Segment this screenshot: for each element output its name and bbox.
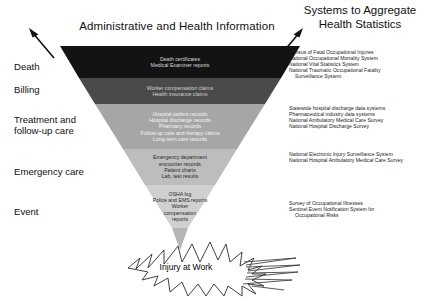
systems-list-treatment: Statewide hospital discharge data system… xyxy=(289,105,432,129)
systems-list-emergency: National Electronic Injury Surveillance … xyxy=(289,151,432,163)
system-item: National Hospital Ambulatory Medical Car… xyxy=(289,157,432,163)
right-up-arrow-icon xyxy=(276,26,306,60)
funnel-band-emergency-text: Emergency department encounter records P… xyxy=(153,154,207,179)
outcome-label: Injury at Work xyxy=(126,262,246,272)
system-item: Surveillance System xyxy=(289,73,432,79)
left-column-title: Administrative and Health Information xyxy=(62,20,292,32)
source-item: Follow-up care and therapy claims xyxy=(140,130,219,136)
diagram-canvas: Administrative and Health Information Sy… xyxy=(0,0,432,302)
funnel-band-treatment: Hospital patient records Hospital discha… xyxy=(60,104,300,149)
left-up-arrow-icon xyxy=(26,26,56,60)
system-item: National Hospital Discharge Survey xyxy=(289,123,432,129)
source-item: Medical Examiner reports xyxy=(151,62,210,68)
source-item: reports xyxy=(153,216,208,222)
source-item: Lab, test results xyxy=(153,173,207,179)
right-column-title: Systems to Aggregate Health Statistics xyxy=(290,4,430,31)
system-item: Occupational Risks xyxy=(289,212,432,218)
right-column-title-line2: Health Statistics xyxy=(290,18,430,32)
funnel-band-death-text: Death certificates Medical Examiner repo… xyxy=(151,56,210,69)
source-item: Health insurance claims xyxy=(147,91,214,97)
systems-list-event: Survey of Occupational Illnesses Sentine… xyxy=(289,200,432,218)
funnel-band-event-text: OSHA log Police and EMS reports Worker c… xyxy=(153,191,208,222)
funnel-band-emergency: Emergency department encounter records P… xyxy=(60,149,300,185)
injury-at-work-burst: Injury at Work xyxy=(126,238,302,300)
source-item: Long-term care records xyxy=(140,136,219,142)
funnel-band-death: Death certificates Medical Examiner repo… xyxy=(60,46,300,78)
funnel-band-treatment-text: Hospital patient records Hospital discha… xyxy=(140,111,219,142)
right-column-title-line1: Systems to Aggregate xyxy=(290,4,430,18)
funnel-band-event: OSHA log Police and EMS reports Worker c… xyxy=(60,185,300,228)
funnel-band-billing: Worker compensation claims Health insura… xyxy=(60,78,300,104)
systems-list-death: Census of Fatal Occupational Injuries Na… xyxy=(289,49,432,79)
funnel-band-billing-text: Worker compensation claims Health insura… xyxy=(147,85,214,98)
source-item: Emergency department xyxy=(153,154,207,160)
inverted-pyramid-funnel: Death certificates Medical Examiner repo… xyxy=(60,46,300,246)
